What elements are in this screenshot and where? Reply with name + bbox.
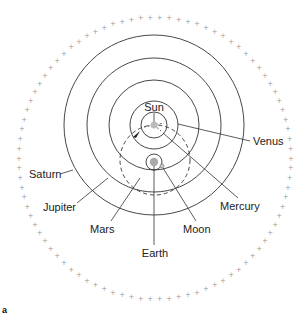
star-icon: + (288, 145, 294, 153)
star-icon: + (212, 281, 218, 289)
star-icon: + (17, 135, 23, 143)
star-icon: + (28, 97, 34, 105)
star-icon: + (110, 289, 116, 297)
star-icon: + (61, 50, 67, 58)
star-icon: + (272, 88, 278, 96)
sun-body (151, 122, 158, 129)
star-icon: + (267, 229, 273, 237)
star-icon: + (76, 271, 82, 279)
star-icon: + (166, 14, 172, 22)
star-icon: + (54, 252, 60, 260)
star-icon: + (185, 18, 191, 26)
star-icon: + (76, 38, 82, 46)
star-icon: + (19, 125, 25, 133)
star-icon: + (228, 271, 234, 279)
star-icon: + (37, 229, 43, 237)
mars-leader (111, 178, 140, 221)
star-icon: + (157, 295, 163, 303)
star-icon: + (16, 155, 22, 163)
moon-label: Moon (183, 223, 211, 235)
star-icon: + (267, 80, 273, 88)
moon-body (160, 164, 164, 168)
star-icon: + (42, 237, 48, 245)
star-icon: + (92, 281, 98, 289)
star-icon: + (147, 295, 153, 303)
star-icon: + (21, 193, 27, 201)
earth-body (150, 158, 158, 166)
star-icon: + (250, 252, 256, 260)
star-icon: + (61, 259, 67, 267)
star-icon: + (236, 43, 242, 51)
star-icon: + (280, 106, 286, 114)
tychonic-system-diagram: ++++++++++++++++++++++++++++++++++++++++… (0, 0, 305, 317)
star-icon: + (16, 145, 22, 153)
star-icon: + (176, 293, 182, 301)
mars-label: Mars (90, 223, 115, 235)
star-icon: + (176, 16, 182, 24)
star-icon: + (283, 116, 289, 124)
star-icon: + (138, 14, 144, 22)
star-icon: + (68, 266, 74, 274)
star-icon: + (24, 106, 30, 114)
star-icon: + (243, 259, 249, 267)
panel-label: a (2, 305, 8, 315)
star-icon: + (84, 32, 90, 40)
star-icon: + (285, 184, 291, 192)
star-icon: + (54, 57, 60, 65)
star-icon: + (157, 14, 163, 22)
star-icon: + (166, 295, 172, 303)
mercury-label: Mercury (220, 200, 260, 212)
moon-leader (163, 168, 196, 221)
star-icon: + (32, 221, 38, 229)
star-icon: + (236, 266, 242, 274)
star-icon: + (92, 28, 98, 36)
star-icon: + (24, 203, 30, 211)
star-icon: + (21, 116, 27, 124)
star-icon: + (37, 80, 43, 88)
star-icon: + (128, 293, 134, 301)
star-icon: + (203, 24, 209, 32)
star-icon: + (48, 64, 54, 72)
star-icon: + (272, 221, 278, 229)
star-icon: + (128, 16, 134, 24)
star-icon: + (110, 20, 116, 28)
star-icon: + (28, 212, 34, 220)
star-icon: + (280, 203, 286, 211)
star-icon: + (138, 295, 144, 303)
star-icon: + (262, 72, 268, 80)
star-icon: + (283, 193, 289, 201)
star-icon: + (17, 174, 23, 182)
star-icon: + (32, 88, 38, 96)
star-icon: + (119, 18, 125, 26)
star-icon: + (194, 20, 200, 28)
venus-leader (178, 124, 250, 141)
venus-label: Venus (253, 135, 284, 147)
star-icon: + (84, 277, 90, 285)
star-icon: + (185, 291, 191, 299)
star-icon: + (220, 277, 226, 285)
star-icon: + (101, 285, 107, 293)
star-icon: + (48, 245, 54, 253)
star-icon: + (68, 43, 74, 51)
star-icon: + (256, 245, 262, 253)
star-icon: + (147, 14, 153, 22)
star-icon: + (276, 212, 282, 220)
star-icon: + (250, 57, 256, 65)
earth-label: Earth (142, 247, 168, 259)
star-icon: + (243, 50, 249, 58)
sun-label: Sun (144, 101, 164, 113)
star-icon: + (288, 155, 294, 163)
star-icon: + (19, 184, 25, 192)
star-icon: + (101, 24, 107, 32)
star-icon: + (212, 28, 218, 36)
star-icon: + (276, 97, 282, 105)
star-icon: + (285, 125, 291, 133)
star-icon: + (228, 38, 234, 46)
star-icon: + (194, 289, 200, 297)
star-icon: + (287, 174, 293, 182)
star-icon: + (42, 72, 48, 80)
saturn-leader (60, 170, 73, 174)
star-icon: + (119, 291, 125, 299)
star-icon: + (203, 285, 209, 293)
star-icon: + (262, 237, 268, 245)
